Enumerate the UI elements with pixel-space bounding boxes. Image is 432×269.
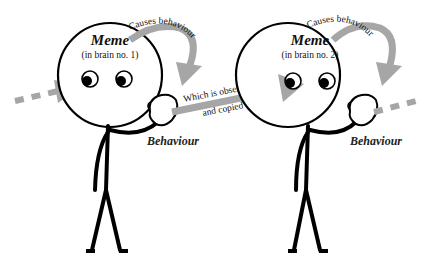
behaviour-label-1: Behaviour bbox=[146, 134, 199, 148]
meme-label-1: Meme bbox=[90, 32, 130, 48]
brain-label-1: (in brain no. 1) bbox=[82, 50, 139, 61]
outgoing-dashed-arrow bbox=[374, 100, 420, 112]
behaviour-label-2: Behaviour bbox=[349, 134, 402, 148]
fist-2 bbox=[350, 95, 378, 126]
brain-label-2: (in brain no. 2) bbox=[282, 50, 339, 61]
stick-body-2 bbox=[288, 122, 356, 251]
figure-2: Meme (in brain no. 2) Causes behaviour B… bbox=[236, 14, 402, 251]
meme-transmission-diagram: Meme (in brain no. 1) Causes behaviour bbox=[0, 0, 432, 269]
meme-label-2: Meme bbox=[290, 32, 330, 48]
figure-1: Meme (in brain no. 1) Causes behaviour bbox=[58, 16, 202, 251]
